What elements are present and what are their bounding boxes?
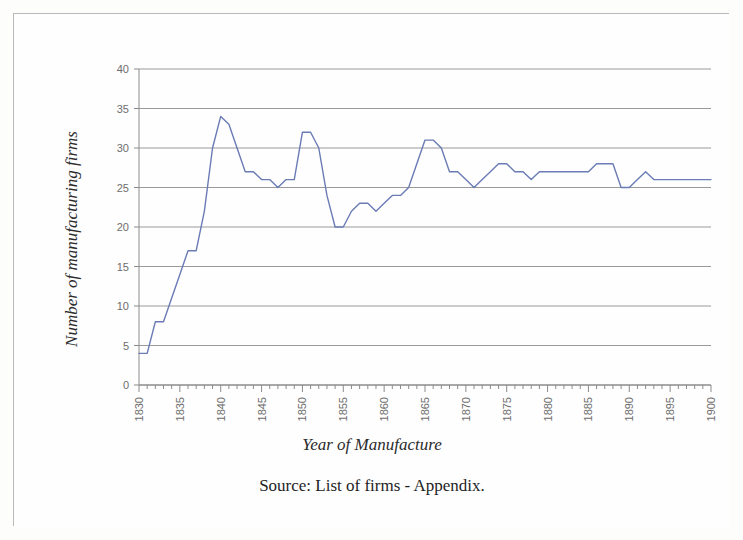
x-axis-tick-label: 1865 [419, 397, 431, 421]
y-axis-tick-label: 15 [117, 261, 129, 273]
y-axis-title: Number of manufacturing firms [62, 131, 81, 348]
y-axis-tick-label: 10 [117, 300, 129, 312]
figure-page: 0510152025303540 18301835184018451850185… [0, 0, 743, 540]
x-axis-tick-label: 1895 [664, 397, 676, 421]
x-axis-tick-label: 1900 [705, 397, 717, 421]
source-note: Source: List of firms - Appendix. [259, 476, 485, 495]
x-axis-tick-label: 1885 [582, 397, 594, 421]
x-axis-title: Year of Manufacture [302, 435, 442, 454]
x-axis-tick-label: 1870 [460, 397, 472, 421]
y-axis-tick-label: 40 [117, 63, 129, 75]
x-axis-tick-label: 1830 [133, 397, 145, 421]
y-axis-tick-label: 0 [123, 379, 129, 391]
x-axis-tick-label: 1880 [542, 397, 554, 421]
y-axis-tick-label: 25 [117, 182, 129, 194]
y-axis-tick-label: 35 [117, 103, 129, 115]
y-axis-tick-label: 20 [117, 221, 129, 233]
x-axis-tick-label: 1875 [501, 397, 513, 421]
x-axis-tick-label: 1840 [215, 397, 227, 421]
y-axis-tick-label: 5 [123, 340, 129, 352]
x-axis-tick-label: 1845 [256, 397, 268, 421]
y-axis-tick-label: 30 [117, 142, 129, 154]
figure-frame: 0510152025303540 18301835184018451850185… [13, 13, 729, 526]
x-axis-tick-label: 1890 [623, 397, 635, 421]
x-axis-tick-label: 1855 [337, 397, 349, 421]
x-axis-tick-labels: 1830183518401845185018551860186518701875… [133, 397, 717, 421]
x-axis-tick-label: 1860 [378, 397, 390, 421]
line-chart: 0510152025303540 18301835184018451850185… [14, 14, 730, 527]
x-axis-tick-label: 1850 [296, 397, 308, 421]
x-axis-tick-label: 1835 [174, 397, 186, 421]
